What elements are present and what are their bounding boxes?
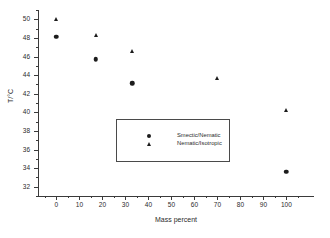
y-tick: 34	[34, 168, 38, 169]
y-tick-label: 48	[23, 35, 30, 42]
y-tick: 48	[34, 38, 38, 39]
x-tick-label: 0	[55, 202, 59, 209]
x-tick: 50	[171, 196, 172, 200]
data-point-triangle	[94, 33, 98, 37]
y-tick-minor	[36, 122, 38, 123]
x-tick-minor	[252, 196, 253, 198]
data-point-triangle	[284, 108, 288, 112]
x-tick-label: 70	[214, 202, 221, 209]
x-tick-label: 100	[281, 202, 292, 209]
x-tick: 0	[56, 196, 57, 200]
data-point-triangle	[215, 76, 219, 80]
x-tick-label: 60	[191, 202, 198, 209]
y-tick-minor	[36, 196, 38, 197]
x-tick-label: 40	[145, 202, 152, 209]
x-tick-minor	[183, 196, 184, 198]
x-tick: 30	[125, 196, 126, 200]
x-tick: 80	[240, 196, 241, 200]
legend-label: Smectic/Nematic	[177, 133, 221, 139]
x-tick-label: 10	[76, 202, 83, 209]
y-tick-label: 40	[23, 109, 30, 116]
y-axis-title: T/°C	[7, 89, 14, 103]
data-point-circle	[130, 81, 135, 86]
legend-marker-triangle	[143, 142, 155, 146]
y-tick-label: 34	[23, 165, 30, 172]
x-tick-label: 50	[168, 202, 175, 209]
y-tick-label: 46	[23, 53, 30, 60]
x-tick-label: 20	[99, 202, 106, 209]
y-tick-minor	[36, 29, 38, 30]
y-tick-label: 36	[23, 146, 30, 153]
y-axis-line	[38, 10, 39, 196]
x-tick-label: 90	[260, 202, 267, 209]
x-tick-minor	[206, 196, 207, 198]
y-tick-minor	[36, 140, 38, 141]
x-tick-minor	[45, 196, 46, 198]
x-tick-label: 30	[122, 202, 129, 209]
y-tick-minor	[36, 103, 38, 104]
x-tick: 40	[148, 196, 149, 200]
y-tick-minor	[36, 159, 38, 160]
data-point-circle	[54, 35, 59, 40]
y-tick-label: 38	[23, 128, 30, 135]
x-tick-minor	[160, 196, 161, 198]
data-point-circle	[284, 170, 289, 175]
y-tick-label: 42	[23, 90, 30, 97]
x-tick-minor	[229, 196, 230, 198]
legend-box: Smectic/NematicNematic/Isotropic	[116, 119, 230, 162]
y-tick: 38	[34, 131, 38, 132]
y-tick: 46	[34, 57, 38, 58]
x-tick-minor	[275, 196, 276, 198]
y-tick-label: 50	[23, 16, 30, 23]
x-tick: 90	[263, 196, 264, 200]
legend-label: Nematic/Isotropic	[177, 141, 222, 147]
y-tick: 32	[34, 187, 38, 188]
y-tick: 50	[34, 19, 38, 20]
data-point-triangle	[54, 17, 58, 21]
y-tick: 40	[34, 112, 38, 113]
x-tick-minor	[114, 196, 115, 198]
x-tick-minor	[68, 196, 69, 198]
x-axis-title: Mass percent	[38, 216, 314, 223]
x-tick-label: 80	[237, 202, 244, 209]
data-point-circle	[93, 57, 98, 62]
y-tick-minor	[36, 66, 38, 67]
y-tick: 36	[34, 150, 38, 151]
chart-page: 32343638404244464850 0102030405060708090…	[0, 0, 330, 238]
y-tick-label: 44	[23, 72, 30, 79]
y-tick: 44	[34, 75, 38, 76]
y-tick-minor	[36, 10, 38, 11]
y-tick: 42	[34, 94, 38, 95]
x-tick-minor	[91, 196, 92, 198]
x-tick: 70	[217, 196, 218, 200]
legend-entry: Smectic/Nematic	[143, 132, 222, 140]
x-tick: 20	[102, 196, 103, 200]
legend-marker-circle	[143, 134, 155, 139]
x-tick-minor	[137, 196, 138, 198]
x-tick: 100	[286, 196, 287, 200]
data-point-triangle	[130, 49, 134, 53]
legend-entries: Smectic/NematicNematic/Isotropic	[143, 132, 222, 148]
y-tick-label: 32	[23, 183, 30, 190]
y-tick-minor	[36, 177, 38, 178]
x-tick: 60	[194, 196, 195, 200]
x-tick-minor	[298, 196, 299, 198]
y-tick-minor	[36, 47, 38, 48]
x-tick: 10	[79, 196, 80, 200]
plot-area: 32343638404244464850 0102030405060708090…	[38, 10, 314, 196]
y-tick-minor	[36, 84, 38, 85]
legend-entry: Nematic/Isotropic	[143, 140, 222, 148]
